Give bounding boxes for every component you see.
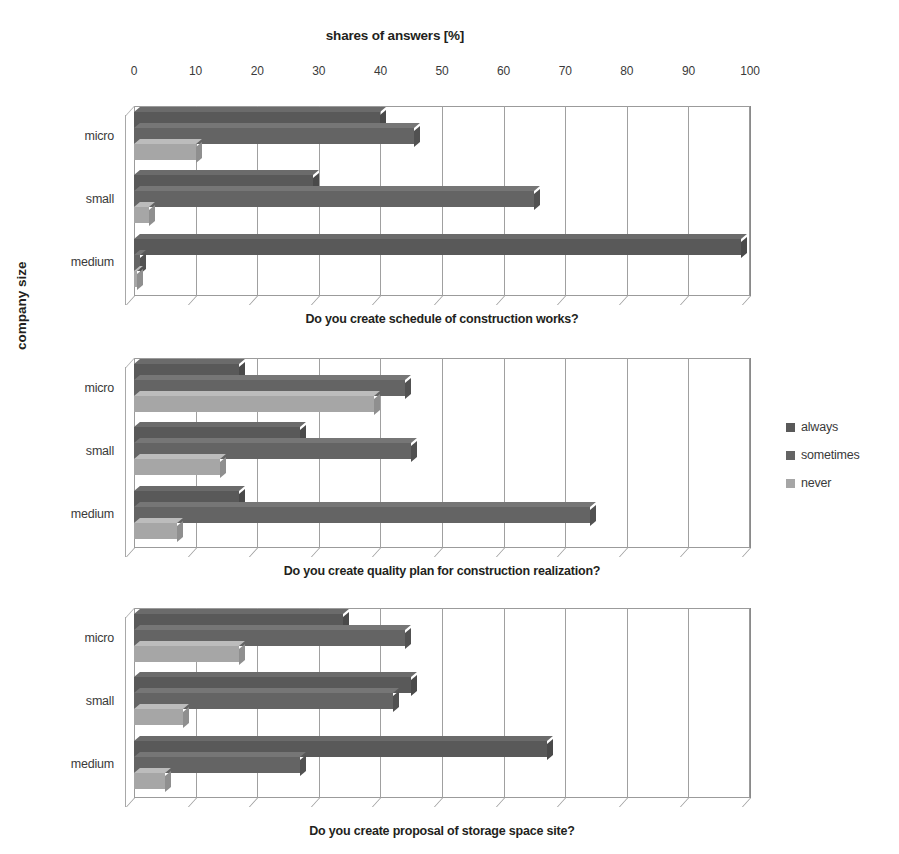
- bar-body: [134, 646, 239, 662]
- bottom-tick-row: [134, 296, 750, 305]
- bottom-tick-30: [311, 798, 320, 807]
- bar-top-face: [134, 375, 411, 380]
- panel-caption: Do you create proposal of storage space …: [134, 824, 750, 838]
- legend-label-sometimes: sometimes: [801, 448, 860, 462]
- bottom-tick-10: [187, 798, 196, 807]
- bar-end-cap: [393, 691, 399, 712]
- bottom-tick-90: [680, 548, 689, 557]
- bar-top-face: [134, 139, 202, 144]
- category-label-column: microsmallmedium: [0, 608, 126, 798]
- x-axis-tick-0: 0: [131, 64, 137, 78]
- bottom-tick-50: [434, 798, 443, 807]
- bar-medium-never: [134, 773, 165, 789]
- category-label-column: microsmallmedium: [0, 358, 126, 548]
- bar-top-face: [134, 736, 553, 741]
- legend-swatch-sometimes: [786, 451, 795, 460]
- bar-top-face: [134, 438, 417, 443]
- category-label-small: small: [86, 192, 114, 206]
- category-label-medium: medium: [71, 507, 114, 521]
- bar-top-face: [134, 486, 245, 491]
- bar-end-cap: [590, 505, 596, 526]
- bar-micro-never: [134, 646, 239, 662]
- bottom-tick-90: [680, 296, 689, 305]
- plot-area: [134, 358, 750, 548]
- bottom-tick-80: [619, 548, 628, 557]
- bottom-tick-30: [311, 548, 320, 557]
- bottom-tick-70: [557, 798, 566, 807]
- bar-group-container: [134, 106, 750, 296]
- chart-panel-schedule: microsmallmediumDo you create schedule o…: [0, 96, 899, 331]
- bar-end-cap: [165, 771, 171, 792]
- bar-end-cap: [405, 628, 411, 649]
- bottom-tick-row: [134, 798, 750, 807]
- bar-top-face: [134, 672, 417, 677]
- bar-medium-never: [134, 523, 177, 539]
- bottom-tick-row: [134, 548, 750, 557]
- bar-body: [134, 459, 220, 475]
- bottom-tick-20: [249, 548, 258, 557]
- bar-end-cap: [411, 441, 417, 462]
- bar-group-container: [134, 608, 750, 798]
- bar-top-face: [134, 107, 386, 112]
- bar-end-cap: [414, 126, 420, 147]
- bar-group-container: [134, 358, 750, 548]
- category-label-medium: medium: [71, 757, 114, 771]
- bar-end-cap: [534, 189, 540, 210]
- x-axis-tick-60: 60: [497, 64, 510, 78]
- x-axis-tick-90: 90: [682, 64, 695, 78]
- bar-top-face: [134, 768, 171, 773]
- bar-top-face: [134, 123, 420, 128]
- bar-top-face: [134, 641, 245, 646]
- bottom-tick-100: [742, 296, 751, 305]
- bar-top-face: [134, 391, 380, 396]
- bar-end-cap: [183, 707, 189, 728]
- bar-small-never: [134, 207, 149, 223]
- legend-label-never: never: [801, 476, 831, 490]
- bar-end-cap: [220, 457, 226, 478]
- bar-top-face: [134, 688, 399, 693]
- category-label-micro: micro: [84, 381, 114, 395]
- bar-medium-always: [134, 239, 741, 255]
- bottom-tick-70: [557, 296, 566, 305]
- x-axis-tick-100: 100: [740, 64, 759, 78]
- bar-body: [134, 773, 165, 789]
- x-axis-tick-30: 30: [312, 64, 325, 78]
- legend-item-never[interactable]: never: [786, 476, 896, 490]
- bar-top-face: [134, 609, 349, 614]
- panel-caption: Do you create quality plan for construct…: [134, 564, 750, 578]
- gridline-100: [750, 608, 751, 798]
- bar-top-face: [134, 704, 189, 709]
- bar-top-face: [134, 625, 411, 630]
- bar-micro-never: [134, 396, 374, 412]
- bar-body: [134, 507, 590, 523]
- bar-top-face: [134, 186, 540, 191]
- bottom-tick-20: [249, 798, 258, 807]
- bar-body: [134, 709, 183, 725]
- bottom-tick-10: [187, 548, 196, 557]
- bar-medium-never: [134, 271, 137, 287]
- bottom-tick-60: [495, 798, 504, 807]
- bottom-tick-100: [742, 798, 751, 807]
- category-label-micro: micro: [84, 631, 114, 645]
- bottom-tick-60: [495, 548, 504, 557]
- bar-top-face: [134, 502, 596, 507]
- x-axis-tick-50: 50: [436, 64, 449, 78]
- x-axis-tick-10: 10: [189, 64, 202, 78]
- panel-caption: Do you create schedule of construction w…: [134, 312, 750, 326]
- bar-end-cap: [547, 739, 553, 760]
- x-axis-tick-70: 70: [559, 64, 572, 78]
- bar-top-face: [134, 359, 245, 364]
- x-axis-tick-20: 20: [251, 64, 264, 78]
- bar-end-cap: [137, 269, 143, 290]
- bottom-tick-50: [434, 548, 443, 557]
- bar-body: [134, 207, 149, 223]
- legend-item-always[interactable]: always: [786, 420, 896, 434]
- bar-end-cap: [177, 521, 183, 542]
- category-label-small: small: [86, 444, 114, 458]
- bar-body: [134, 191, 534, 207]
- bar-end-cap: [149, 205, 155, 226]
- category-label-column: microsmallmedium: [0, 106, 126, 296]
- legend-item-sometimes[interactable]: sometimes: [786, 448, 896, 462]
- bar-end-cap: [374, 394, 380, 415]
- bar-top-face: [134, 422, 306, 427]
